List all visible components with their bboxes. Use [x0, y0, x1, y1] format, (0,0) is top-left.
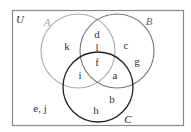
set-c-label: C: [124, 114, 131, 125]
region-a-and-b-lower: l: [95, 42, 98, 53]
region-a-and-b-upper: d: [94, 29, 100, 40]
region-outside: e, j: [33, 103, 46, 114]
region-a-and-c: i: [78, 70, 81, 81]
set-a-label: A: [44, 17, 51, 28]
universe-label: U: [16, 14, 24, 25]
region-b-and-c: a: [113, 70, 118, 81]
region-c-only-right: b: [109, 94, 115, 105]
region-a-b-c: f: [95, 57, 99, 68]
set-b-label: B: [146, 16, 153, 27]
region-b-only-lower: g: [134, 56, 140, 67]
venn-diagram: U A B C k c g d l f i a b h e, j: [0, 0, 191, 132]
region-b-only-upper: c: [124, 40, 129, 51]
region-c-only-left: h: [93, 105, 99, 116]
region-a-only: k: [64, 41, 70, 52]
